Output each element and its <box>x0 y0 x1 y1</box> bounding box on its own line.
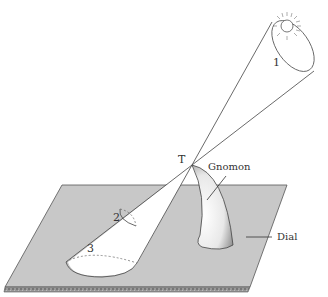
label-region-1: 1 <box>273 56 280 69</box>
label-gnomon: Gnomon <box>208 161 251 172</box>
label-dial: Dial <box>277 231 297 242</box>
label-region-3: 3 <box>87 242 94 255</box>
label-t: T <box>178 153 186 166</box>
sun-icon <box>273 12 301 40</box>
label-region-2: 2 <box>113 211 120 224</box>
sundial-diagram: T 1 2 3 Gnomon Dial <box>0 0 328 297</box>
sun-cone <box>192 13 323 165</box>
